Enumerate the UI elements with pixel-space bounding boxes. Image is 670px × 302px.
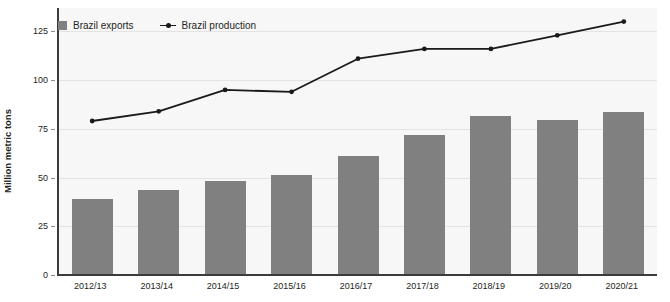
chart-legend: Brazil exports Brazil production [58, 17, 256, 33]
y-tick-label: 125 [0, 26, 48, 36]
x-tick-label: 2014/15 [193, 281, 253, 291]
plot-inner [59, 8, 657, 275]
line-point-2018-19 [489, 47, 494, 52]
x-axis-line [57, 274, 657, 276]
x-tick-label: 2015/16 [260, 281, 320, 291]
x-tick-label: 2018/19 [459, 281, 519, 291]
plot-area [57, 8, 657, 275]
bar-2017-18 [404, 135, 445, 275]
bar-2015-16 [271, 175, 312, 275]
line-point-2015-16 [289, 89, 294, 94]
y-tick-label: 50 [0, 173, 48, 183]
y-tick-mark [51, 129, 55, 130]
line-point-2020-21 [621, 19, 626, 24]
bar-2019-20 [537, 120, 578, 275]
production-line-path [92, 22, 624, 121]
bar-2018-19 [470, 116, 511, 275]
chart-container: Million metric tons 0255075100125 2012/1… [0, 0, 670, 302]
x-tick-label: 2017/18 [392, 281, 452, 291]
line-marker-icon [160, 21, 176, 30]
bar-2020-21 [603, 112, 644, 275]
x-tick-label: 2020/21 [592, 281, 652, 291]
y-tick-mark [51, 226, 55, 227]
bar-2013-14 [138, 190, 179, 275]
y-tick-mark [51, 80, 55, 81]
x-tick-label: 2013/14 [127, 281, 187, 291]
legend-item-brazil-exports[interactable]: Brazil exports [58, 20, 134, 31]
y-tick-mark [51, 178, 55, 179]
y-tick-mark [51, 31, 55, 32]
bar-2014-15 [205, 181, 246, 275]
legend-label-brazil-exports: Brazil exports [73, 20, 134, 31]
bar-2012-13 [72, 199, 113, 275]
y-axis-title: Million metric tons [0, 0, 16, 302]
line-point-2017-18 [422, 47, 427, 52]
line-point-2012-13 [90, 119, 95, 124]
x-tick-label: 2012/13 [60, 281, 120, 291]
line-point-2014-15 [223, 88, 228, 93]
y-tick-label: 75 [0, 124, 48, 134]
x-tick-label: 2019/20 [525, 281, 585, 291]
gridline [59, 80, 657, 81]
square-swatch-icon [58, 21, 67, 30]
legend-label-brazil-production: Brazil production [182, 20, 256, 31]
bar-2016-17 [338, 156, 379, 275]
line-point-2019-20 [555, 33, 560, 38]
line-point-2013-14 [156, 109, 161, 114]
y-tick-label: 100 [0, 75, 48, 85]
line-point-2016-17 [356, 56, 361, 61]
y-tick-label: 0 [0, 270, 48, 280]
x-tick-label: 2016/17 [326, 281, 386, 291]
y-tick-mark [51, 275, 55, 276]
legend-item-brazil-production[interactable]: Brazil production [160, 20, 256, 31]
y-tick-label: 25 [0, 221, 48, 231]
